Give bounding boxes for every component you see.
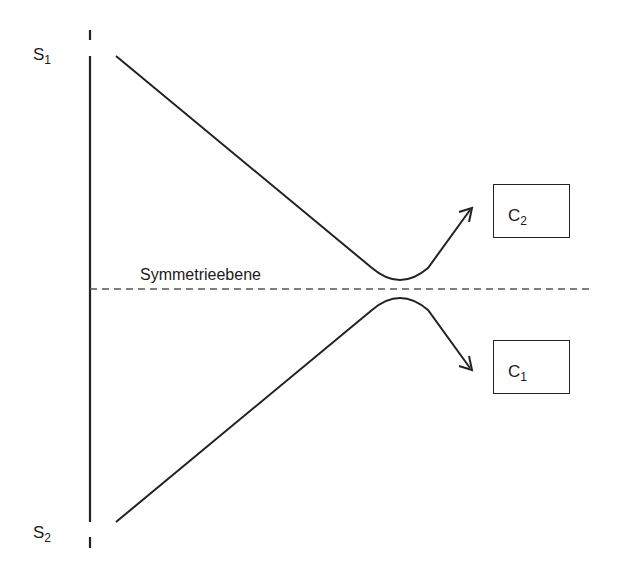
label-c1-sub: 1 bbox=[520, 370, 527, 384]
trajectory-s1-to-c2 bbox=[116, 56, 470, 280]
trajectory-s2-to-c1 bbox=[116, 298, 470, 522]
label-c2: C2 bbox=[508, 207, 527, 227]
label-c2-sub: 2 bbox=[520, 214, 527, 228]
label-s1-base: S bbox=[33, 45, 44, 64]
label-s1-sub: 1 bbox=[44, 53, 51, 67]
symmetry-plane-label: Symmetrieebene bbox=[140, 266, 261, 284]
box-c1: C1 bbox=[493, 340, 570, 394]
label-c1-base: C bbox=[508, 362, 520, 381]
label-s1: S1 bbox=[33, 46, 51, 66]
diagram-canvas bbox=[0, 0, 618, 570]
label-s2-base: S bbox=[33, 523, 44, 542]
label-c1: C1 bbox=[508, 363, 527, 383]
label-c2-base: C bbox=[508, 206, 520, 225]
box-c2: C2 bbox=[493, 184, 570, 238]
label-s2: S2 bbox=[33, 524, 51, 544]
label-s2-sub: 2 bbox=[44, 531, 51, 545]
